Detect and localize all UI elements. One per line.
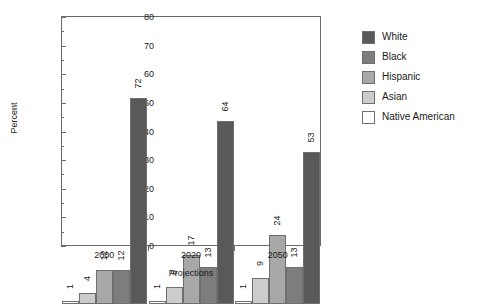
legend-swatch-icon	[362, 91, 375, 104]
bar-rect	[183, 255, 200, 304]
bar-value-label: 1	[66, 278, 75, 295]
y-tick-major	[61, 46, 66, 47]
x-tick-label-2050: 2050	[243, 250, 313, 260]
bar-value-label: 1	[239, 278, 248, 295]
bar-value-label: 64	[221, 98, 230, 115]
legend-item-white[interactable]: White	[362, 28, 455, 46]
legend-label: White	[382, 32, 408, 42]
bar-value-label: 24	[273, 212, 282, 229]
legend-item-asian[interactable]: Asian	[362, 88, 455, 106]
bar-value-label: 17	[187, 232, 196, 249]
bar-value-label: 72	[134, 75, 143, 92]
x-group-separator	[148, 246, 149, 251]
y-tick-minor	[61, 60, 64, 61]
legend-item-black[interactable]: Black	[362, 48, 455, 66]
bar-rect	[166, 287, 183, 304]
legend-item-hispanic[interactable]: Hispanic	[362, 68, 455, 86]
legend-label: Native American	[382, 112, 455, 122]
x-tick-label-2000: 2000	[69, 250, 139, 260]
legend-swatch-icon	[362, 111, 375, 124]
legend-swatch-icon	[362, 51, 375, 64]
y-axis-title: Percent	[9, 88, 19, 148]
bar-value-label: 1	[153, 278, 162, 295]
legend-swatch-icon	[362, 71, 375, 84]
legend-label: Asian	[382, 92, 407, 102]
bar-chart: 01020304050607080 Percent 14121272161713…	[0, 0, 481, 304]
x-group-separator	[234, 246, 235, 251]
bar-rect	[79, 293, 96, 304]
bar-rect	[252, 278, 269, 304]
x-tick-label-2020: 2020	[156, 250, 226, 260]
bar-rect	[303, 152, 320, 304]
y-tick-minor	[61, 31, 64, 32]
y-tick-label: 70	[144, 42, 154, 51]
legend: WhiteBlackHispanicAsianNative American	[362, 28, 455, 128]
legend-item-native-american[interactable]: Native American	[362, 108, 455, 126]
x-axis-title: Projections	[61, 268, 321, 278]
y-tick-label: 80	[144, 13, 154, 22]
y-tick-major	[61, 17, 66, 18]
legend-label: Black	[382, 52, 406, 62]
bar-value-label: 53	[307, 129, 316, 146]
legend-swatch-icon	[362, 31, 375, 44]
legend-label: Hispanic	[382, 72, 420, 82]
